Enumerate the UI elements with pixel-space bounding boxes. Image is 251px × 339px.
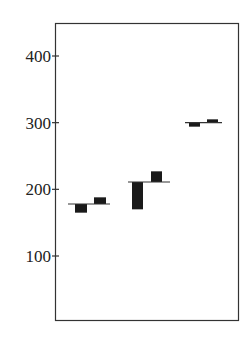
deviation-bar xyxy=(75,204,87,213)
chart: 100200300400 xyxy=(0,0,251,339)
bar-group-3 xyxy=(185,119,222,126)
y-tick-label: 400 xyxy=(26,47,52,66)
y-tick-label: 100 xyxy=(26,247,52,266)
plot-frame xyxy=(56,24,239,321)
deviation-bar xyxy=(132,182,143,209)
y-axis-ticks: 100200300400 xyxy=(26,47,60,266)
bar-groups xyxy=(68,119,222,212)
bar-group-1 xyxy=(68,197,110,212)
deviation-bar xyxy=(94,197,106,204)
bar-group-2 xyxy=(128,171,170,209)
y-tick-label: 300 xyxy=(26,114,52,133)
deviation-bar xyxy=(151,171,162,182)
y-tick-label: 200 xyxy=(26,180,52,199)
